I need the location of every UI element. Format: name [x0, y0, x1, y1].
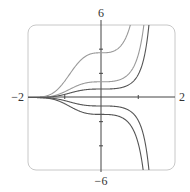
chart: 6 −6 −2 2: [0, 0, 190, 192]
x-min-label: −2: [11, 90, 24, 104]
y-max-label: 6: [98, 6, 104, 20]
y-min-label: −6: [95, 174, 108, 188]
x-max-label: 2: [179, 90, 185, 104]
